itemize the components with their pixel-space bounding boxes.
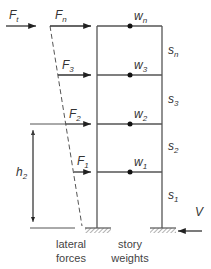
story-height-label-n: sn (168, 43, 179, 59)
caption-story-line2: weights (110, 252, 149, 264)
force-envelope-dashed-line (50, 26, 82, 226)
caption-lateral-line1: lateral (56, 238, 86, 250)
weight-label-3: w3 (134, 58, 148, 74)
force-label-1: F1 (77, 154, 89, 170)
weight-label-1: w1 (134, 155, 147, 171)
caption-lateral-line2: forces (56, 252, 86, 264)
force-label-2: F2 (69, 107, 81, 123)
weight-label-n: wn (134, 9, 148, 25)
ground-hatch-icon (85, 228, 111, 233)
weight-label-2: w2 (134, 107, 148, 123)
frame (97, 26, 162, 228)
weight-dot-n (128, 24, 133, 29)
story-height-label-3: s3 (168, 92, 179, 108)
weight-dot-1 (128, 170, 133, 175)
base-shear-label: V (195, 205, 204, 219)
story-height-label-1: s1 (168, 188, 178, 204)
force-label-3: F3 (62, 58, 74, 74)
caption-story-line1: story (118, 238, 142, 250)
right-support (150, 228, 176, 233)
height-label-h2: h2 (16, 165, 28, 181)
left-support (85, 228, 111, 233)
story-height-label-2: s2 (168, 139, 179, 155)
force-label-top: Ft (9, 8, 19, 24)
weight-dot-3 (128, 73, 133, 78)
building-lateral-force-diagram: Ft Fn F3 F2 F1 wn w3 w2 w1 sn s3 s2 s1 h… (0, 0, 211, 269)
weight-dot-2 (128, 122, 133, 127)
ground-hatch-icon (150, 228, 176, 233)
force-label-n: Fn (55, 8, 67, 24)
